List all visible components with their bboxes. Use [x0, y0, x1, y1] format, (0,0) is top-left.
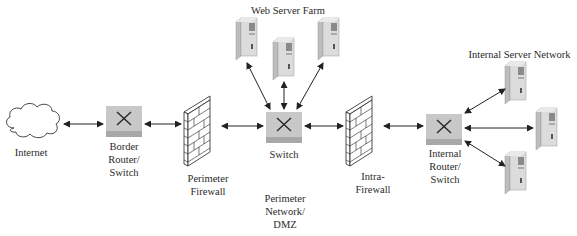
- cloud-icon: [7, 103, 60, 137]
- internal-server-1-icon: [505, 62, 526, 104]
- label-line: DMZ: [255, 218, 315, 231]
- label-line: Perimeter: [255, 192, 315, 205]
- perimeter-firewall-icon: [184, 96, 210, 166]
- label-line: Firewall: [178, 185, 238, 198]
- label-line: Border: [99, 140, 149, 153]
- web-server-1-icon: [236, 18, 257, 60]
- network-diagram: Internet Border Router/ Switch Perimeter…: [0, 0, 577, 236]
- web-server-2-icon: [273, 38, 294, 80]
- label-line: Switch: [99, 166, 149, 179]
- internal-router-label: Internal Router/ Switch: [418, 147, 472, 186]
- intra-firewall-label: Intra- Firewall: [348, 170, 398, 196]
- switch-icon: [266, 112, 302, 143]
- web-server-farm-label: Web Server Farm: [228, 4, 348, 17]
- switch-label: Switch: [259, 148, 309, 161]
- perimeter-firewall-label: Perimeter Firewall: [178, 172, 238, 198]
- internal-router-icon: [426, 114, 462, 145]
- label-line: Intra-: [348, 170, 398, 183]
- intra-firewall-icon: [346, 96, 372, 166]
- border-router-label: Border Router/ Switch: [99, 140, 149, 179]
- label-line: Router/: [99, 153, 149, 166]
- internal-server-network-label: Internal Server Network: [462, 48, 577, 61]
- label-line: Network/: [255, 205, 315, 218]
- label-line: Router/: [418, 160, 472, 173]
- web-server-3-icon: [318, 18, 339, 60]
- internal-server-2-icon: [536, 108, 557, 150]
- label-line: Firewall: [348, 183, 398, 196]
- label-line: Switch: [418, 173, 472, 186]
- internet-label: Internet: [6, 146, 56, 159]
- internal-server-3-icon: [505, 152, 526, 194]
- label-line: Internal: [418, 147, 472, 160]
- perimeter-network-label: Perimeter Network/ DMZ: [255, 192, 315, 231]
- label-line: Perimeter: [178, 172, 238, 185]
- border-router-icon: [106, 106, 142, 137]
